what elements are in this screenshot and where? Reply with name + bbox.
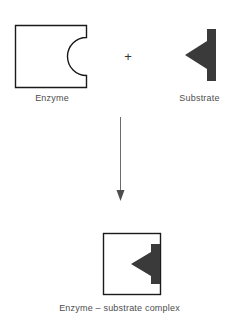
diagram-canvas: + Enzyme Substrate Enzyme – substrate co…	[0, 0, 239, 331]
reaction-arrow-down	[117, 117, 125, 201]
arrow-head	[117, 190, 125, 201]
enzyme-label: Enzyme	[0, 93, 104, 104]
substrate-shape	[185, 29, 216, 81]
substrate-label: Substrate	[160, 93, 239, 104]
enzyme-substrate-complex-label: Enzyme – substrate complex	[0, 303, 239, 314]
plus-operator: +	[120, 48, 136, 66]
enzyme-shape	[16, 26, 87, 88]
complex-shape	[104, 234, 161, 295]
